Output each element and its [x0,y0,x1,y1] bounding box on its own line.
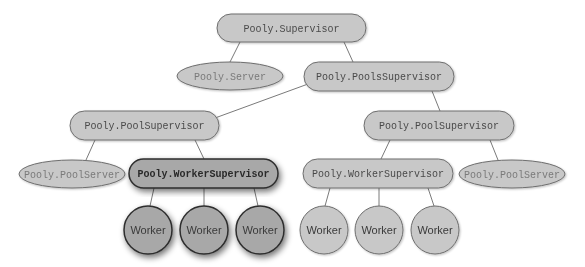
node-label: Pooly.Server [194,72,266,83]
node-label: Pooly.PoolsSupervisor [316,72,442,83]
worker-right-3: Worker [411,206,459,254]
node-label: Pooly.PoolServer [464,170,560,181]
worker-label: Worker [306,224,342,236]
worker-label: Worker [186,224,222,236]
node-label: Pooly.WorkerSupervisor [312,169,444,180]
edge-ws-right-worker-3 [428,188,434,206]
node-label: Pooly.WorkerSupervisor [137,169,269,180]
node-worker-supervisor-left: Pooly.WorkerSupervisor [129,159,278,188]
edge-poolsupervisor-left-workersupervisor [195,140,204,159]
edge-ws-right-worker-1 [325,188,330,206]
node-supervisor: Pooly.Supervisor [217,14,366,42]
node-label: Pooly.PoolSupervisor [84,121,204,132]
node-pools-supervisor: Pooly.PoolsSupervisor [304,62,454,91]
worker-right-1: Worker [300,206,348,254]
node-pool-supervisor-left: Pooly.PoolSupervisor [70,111,219,140]
edge-supervisor-poolssupervisor [344,42,353,62]
worker-label: Worker [361,224,397,236]
node-worker-supervisor-right: Pooly.WorkerSupervisor [303,159,453,188]
edge-supervisor-server [230,42,240,62]
worker-left-1: Worker [124,206,172,254]
worker-label: Worker [130,224,166,236]
worker-left-3: Worker [236,206,284,254]
edge-poolsupervisor-right-workersupervisor [381,140,390,159]
worker-label: Worker [242,224,278,236]
worker-left-2: Worker [180,206,228,254]
node-pool-supervisor-right: Pooly.PoolSupervisor [364,111,514,140]
node-label: Pooly.PoolSupervisor [379,121,499,132]
node-server: Pooly.Server [177,62,283,90]
node-label: Pooly.PoolServer [24,170,120,181]
node-pool-server-right: Pooly.PoolServer [459,160,565,188]
worker-label: Worker [417,224,453,236]
edge-poolssupervisor-poolsupervisor-right [432,91,440,111]
edge-ws-left-worker-3 [254,188,258,206]
edge-ws-left-worker-1 [150,188,154,206]
node-pool-server-left: Pooly.PoolServer [19,160,125,188]
supervision-tree-diagram: Pooly.Supervisor Pooly.Server Pooly.Pool… [0,0,585,267]
worker-right-2: Worker [355,206,403,254]
edge-poolsupervisor-right-poolserver [490,140,498,160]
node-label: Pooly.Supervisor [243,24,339,35]
edge-poolsupervisor-left-poolserver [86,140,95,160]
